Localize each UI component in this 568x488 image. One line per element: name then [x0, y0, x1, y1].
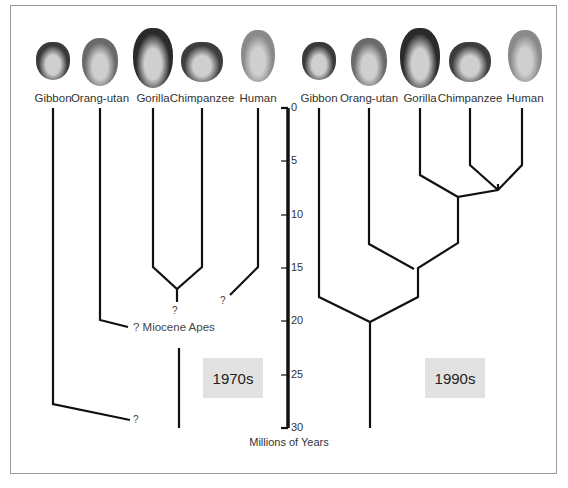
gorilla-chimp-branch-1970s	[153, 108, 202, 289]
axis-label: Millions of Years	[249, 436, 329, 448]
axis-tick-label: 10	[291, 208, 303, 220]
time-axis	[281, 108, 288, 428]
question-mark: ?	[133, 414, 139, 425]
tree-1990s	[319, 108, 522, 428]
axis-tick-label: 25	[291, 368, 303, 380]
human-branch-1970s	[230, 108, 258, 295]
axis-tick-label: 30	[291, 421, 303, 433]
axis-tick-label: 15	[291, 261, 303, 273]
axis-tick-label: 5	[291, 154, 297, 166]
era-box-1990s: 1990s	[425, 358, 485, 398]
question-mark: ?	[220, 295, 226, 306]
phylogeny-diagram	[0, 0, 568, 488]
question-mark: ?	[172, 305, 178, 316]
axis-tick-label: 0	[291, 101, 297, 113]
axis-tick-label: 20	[291, 314, 303, 326]
gibbon-branch-1970s	[53, 108, 130, 420]
orangutan-branch-1970s	[100, 108, 128, 327]
miocene-apes-label: ? Miocene Apes	[133, 321, 215, 333]
era-box-1970s: 1970s	[203, 358, 263, 398]
